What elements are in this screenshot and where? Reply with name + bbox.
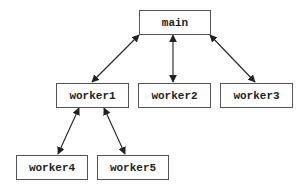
edge-main-worker3-bidirectional-arrow-icon — [210, 35, 255, 82]
node-main: main — [140, 11, 211, 35]
node-label: worker2 — [151, 90, 197, 102]
edge-worker1-worker5-bidirectional-arrow-icon — [104, 108, 125, 154]
node-worker5: worker5 — [98, 156, 169, 180]
edge-main-worker1-bidirectional-arrow-icon — [92, 35, 139, 82]
node-worker4: worker4 — [17, 156, 88, 180]
process-tree-diagram: mainworker1worker2worker3worker4worker5 — [0, 0, 303, 190]
node-label: worker5 — [110, 162, 157, 174]
node-label: main — [162, 17, 188, 29]
nodes: mainworker1worker2worker3worker4worker5 — [17, 11, 293, 180]
node-label: worker1 — [69, 90, 116, 102]
node-worker3: worker3 — [221, 84, 293, 108]
node-worker1: worker1 — [57, 84, 129, 108]
node-worker2: worker2 — [139, 84, 211, 108]
node-label: worker3 — [233, 90, 280, 102]
edge-worker1-worker4-bidirectional-arrow-icon — [58, 108, 79, 154]
node-label: worker4 — [29, 162, 76, 174]
